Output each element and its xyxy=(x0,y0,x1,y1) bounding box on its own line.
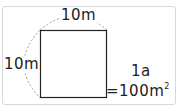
left-side-label: 10m xyxy=(4,57,39,72)
square xyxy=(41,31,107,98)
equation-text: =100m xyxy=(106,82,164,100)
area-equation: =100m2 xyxy=(106,83,170,99)
top-side-label: 10m xyxy=(60,8,97,23)
unit-label: 1a xyxy=(131,64,151,79)
equation-superscript: 2 xyxy=(164,82,170,91)
